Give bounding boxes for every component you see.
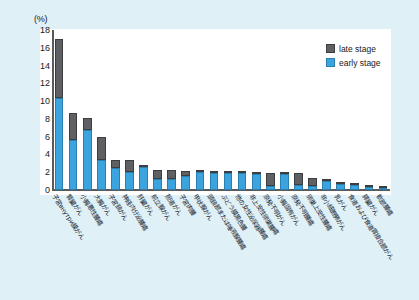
y-axis-tick-label: 8: [45, 115, 50, 124]
y-axis-tick-label: 0: [45, 186, 50, 195]
bar-segment-early-stage: [125, 172, 134, 190]
bar-segment-early-stage: [322, 181, 331, 190]
bar-segment-late-stage: [97, 137, 106, 160]
bar-column: [266, 173, 275, 190]
legend-swatch-late-stage-icon: [326, 44, 335, 53]
y-axis-tick-label: 10: [40, 97, 50, 106]
bar-segment-late-stage: [125, 160, 134, 172]
legend-item-late-stage: late stage: [326, 43, 381, 54]
bar-segment-early-stage: [294, 185, 303, 190]
bar-segment-late-stage: [167, 170, 176, 179]
bar-column: [139, 165, 148, 190]
bar-segment-late-stage: [266, 173, 275, 185]
chart-page: (%) 024681012141618 子宮внутри膜がん腎臓がん小腸悪性腫…: [0, 0, 419, 300]
bar-segment-early-stage: [308, 186, 317, 190]
bar-segment-early-stage: [379, 188, 388, 190]
chart-legend: late stage early stage: [326, 43, 381, 71]
bar-segment-early-stage: [83, 130, 92, 190]
bar-segment-early-stage: [153, 179, 162, 190]
bar-segment-late-stage: [111, 160, 120, 168]
bar-column: [111, 160, 120, 190]
bar-column: [379, 186, 388, 190]
bar-column: [238, 171, 247, 190]
bar-column: [336, 182, 345, 190]
bar-segment-late-stage: [55, 39, 64, 99]
legend-label-early-stage: early stage: [339, 58, 381, 68]
legend-swatch-early-stage-icon: [326, 58, 335, 67]
bar-column: [196, 170, 205, 190]
y-axis-tick-label: 2: [45, 168, 50, 177]
bar-column: [125, 160, 134, 190]
bar-column: [365, 185, 374, 190]
bar-segment-early-stage: [266, 186, 275, 190]
bar-column: [350, 183, 359, 190]
bar-segment-late-stage: [69, 113, 78, 141]
y-axis-tick-label: 18: [40, 26, 50, 35]
bar-segment-early-stage: [252, 174, 261, 190]
y-axis-ticks: 024681012141618: [18, 0, 50, 300]
bar-segment-early-stage: [139, 167, 148, 190]
y-axis-tick-label: 14: [40, 62, 50, 71]
bar-segment-early-stage: [181, 176, 190, 190]
bar-segment-early-stage: [365, 187, 374, 190]
bar-segment-early-stage: [196, 172, 205, 190]
bar-segment-late-stage: [153, 170, 162, 180]
bar-segment-early-stage: [280, 174, 289, 190]
bar-segment-early-stage: [224, 173, 233, 190]
bar-column: [210, 171, 219, 190]
x-axis-labels: 子宮внутри膜がん腎臓がん小腸悪性腫瘍大腸がん子宮頸がん神経内分泌腫瘍肝臓が…: [52, 192, 390, 300]
bar-segment-early-stage: [97, 160, 106, 190]
bar-segment-early-stage: [350, 185, 359, 190]
bar-column: [97, 137, 106, 190]
bar-column: [280, 172, 289, 190]
legend-label-late-stage: late stage: [339, 44, 376, 54]
bar-column: [322, 179, 331, 190]
bar-column: [153, 170, 162, 190]
bar-segment-early-stage: [69, 140, 78, 190]
bar-column: [252, 172, 261, 190]
bar-segment-early-stage: [210, 173, 219, 190]
bar-segment-early-stage: [55, 98, 64, 190]
bar-column: [181, 171, 190, 190]
bar-column: [294, 173, 303, 190]
bar-column: [83, 118, 92, 190]
bar-column: [308, 178, 317, 190]
bar-segment-early-stage: [336, 184, 345, 190]
y-axis-tick-label: 12: [40, 79, 50, 88]
y-axis-tick-label: 4: [45, 150, 50, 159]
y-axis-tick-label: 6: [45, 133, 50, 142]
bar-segment-early-stage: [111, 168, 120, 190]
bar-segment-early-stage: [238, 173, 247, 190]
bar-column: [55, 39, 64, 190]
y-axis-tick-label: 16: [40, 44, 50, 53]
bar-segment-early-stage: [167, 179, 176, 190]
legend-item-early-stage: early stage: [326, 57, 381, 68]
bar-column: [224, 171, 233, 190]
bar-segment-late-stage: [83, 118, 92, 130]
bar-segment-late-stage: [308, 178, 317, 187]
bar-segment-late-stage: [294, 173, 303, 185]
bar-column: [167, 170, 176, 190]
bar-column: [69, 113, 78, 190]
